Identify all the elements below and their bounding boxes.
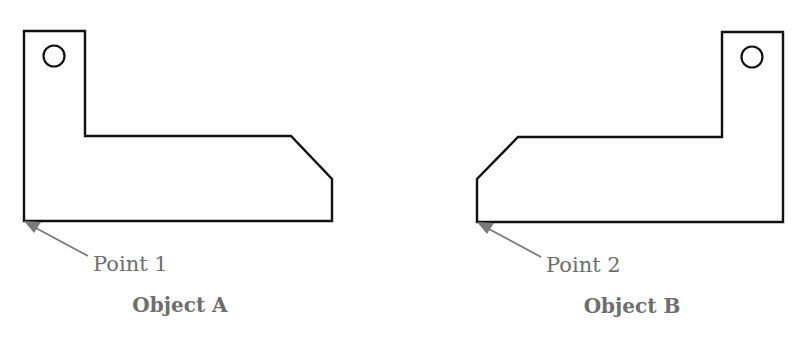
- object-a-shape: [24, 31, 332, 221]
- point-2-label: Point 2: [546, 253, 621, 277]
- point-1-arrow-icon: [24, 221, 88, 256]
- diagram-canvas: Point 1 Object A Point 2 Object B: [0, 0, 795, 348]
- object-a-label: Object A: [132, 293, 228, 317]
- object-a-hole: [44, 46, 65, 67]
- object-b-hole: [742, 47, 763, 68]
- object-a: Point 1 Object A: [24, 31, 332, 317]
- point-1-label: Point 1: [93, 252, 168, 276]
- object-b-shape: [477, 32, 783, 222]
- point-2-arrow-icon: [477, 222, 541, 257]
- object-b: Point 2 Object B: [477, 32, 783, 318]
- object-b-label: Object B: [584, 294, 681, 318]
